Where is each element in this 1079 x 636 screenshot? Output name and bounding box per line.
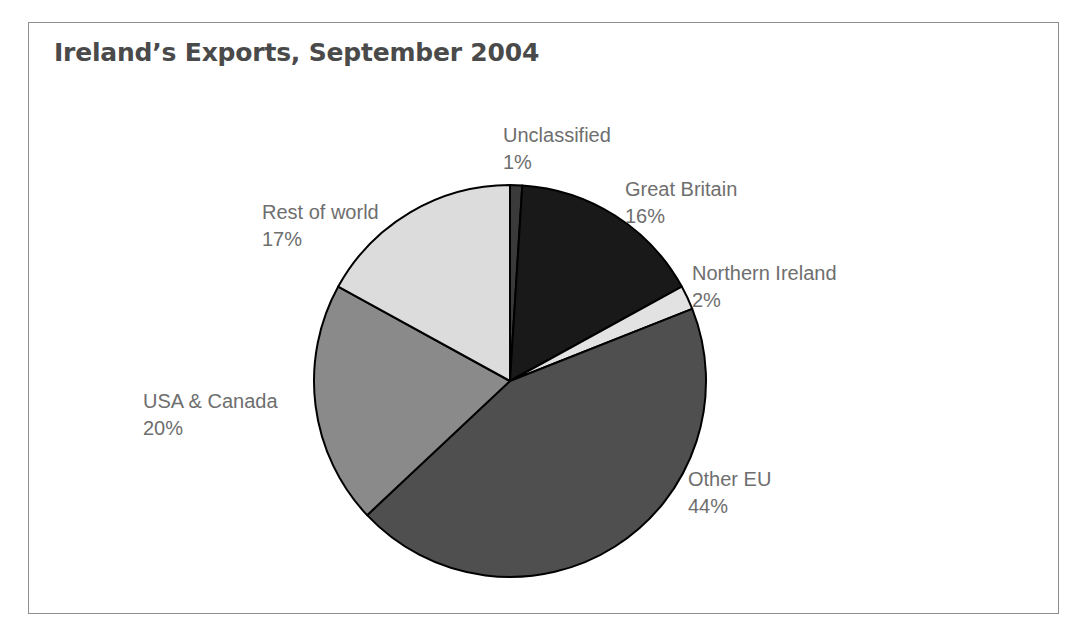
slice-label-unclassified-value: 1% bbox=[503, 149, 611, 176]
slice-label-other-eu-name: Other EU bbox=[688, 468, 771, 490]
slice-label-great-britain-value: 16% bbox=[625, 203, 737, 230]
slice-label-great-britain-name: Great Britain bbox=[625, 178, 737, 200]
chart-figure: Ireland’s Exports, September 2004 Unclas… bbox=[0, 0, 1079, 636]
page-title: Ireland’s Exports, September 2004 bbox=[54, 38, 539, 67]
slice-label-usa-canada: USA & Canada 20% bbox=[143, 388, 278, 442]
slice-label-northern-ireland-name: Northern Ireland bbox=[692, 262, 837, 284]
slice-label-rest-of-world: Rest of world 17% bbox=[262, 199, 379, 253]
slice-label-rest-of-world-value: 17% bbox=[262, 226, 379, 253]
slice-label-usa-canada-name: USA & Canada bbox=[143, 390, 278, 412]
slice-label-usa-canada-value: 20% bbox=[143, 415, 278, 442]
slice-label-other-eu-value: 44% bbox=[688, 493, 771, 520]
slice-label-rest-of-world-name: Rest of world bbox=[262, 201, 379, 223]
slice-label-northern-ireland-value: 2% bbox=[692, 287, 837, 314]
slice-label-great-britain: Great Britain 16% bbox=[625, 176, 737, 230]
slice-label-unclassified: Unclassified 1% bbox=[503, 122, 611, 176]
slice-label-other-eu: Other EU 44% bbox=[688, 466, 771, 520]
slice-label-unclassified-name: Unclassified bbox=[503, 124, 611, 146]
slice-label-northern-ireland: Northern Ireland 2% bbox=[692, 260, 837, 314]
